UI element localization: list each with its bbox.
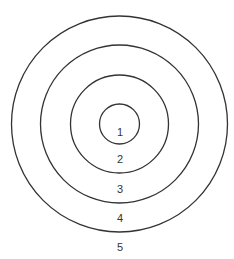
ring-4 <box>12 16 228 232</box>
ring-1 <box>100 104 140 144</box>
zone-label-5: 5 <box>117 241 123 253</box>
zone-label-4: 4 <box>117 212 123 224</box>
zone-label-2: 2 <box>117 153 123 165</box>
concentric-circles-diagram: 1 2 3 4 5 <box>0 0 234 259</box>
zone-label-3: 3 <box>117 183 123 195</box>
ring-3 <box>41 45 199 203</box>
zone-label-1: 1 <box>117 126 123 138</box>
